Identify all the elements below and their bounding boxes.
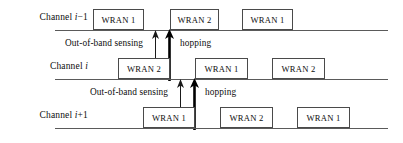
wran-box-label: WRAN 1 — [152, 113, 186, 123]
hopping-text: hopping — [205, 87, 236, 97]
wran-box-label: WRAN 1 — [251, 15, 285, 25]
channel-baseline-i-plus-1 — [55, 128, 388, 129]
channel-label-text-prefix: Channel — [50, 61, 85, 71]
wran-box: WRAN 1 — [242, 9, 293, 30]
wran-box: WRAN 2 — [170, 9, 219, 30]
wran-box: WRAN 1 — [195, 58, 248, 79]
wran-box: WRAN 1 — [297, 107, 350, 128]
hopping-text: hopping — [180, 38, 211, 48]
wran-box-label: WRAN 1 — [102, 15, 136, 25]
wran-box-label: WRAN 2 — [178, 15, 212, 25]
wran-box: WRAN 2 — [118, 58, 170, 79]
channel-label-text-var: i — [85, 61, 88, 71]
channel-baseline-i — [55, 79, 388, 80]
wran-box: WRAN 1 — [143, 107, 195, 128]
channel-label-i: Channel i — [8, 61, 88, 71]
wran-box: WRAN 2 — [272, 58, 325, 79]
channel-label-i-plus-1: Channel i+1 — [8, 110, 88, 120]
wran-box-label: WRAN 1 — [307, 113, 341, 123]
wran-box-label: WRAN 2 — [282, 64, 316, 74]
hopping-label: hopping — [180, 38, 211, 48]
wran-box-label: WRAN 2 — [127, 64, 161, 74]
out-of-band-sensing-text: Out-of-band sensing — [90, 87, 168, 97]
wran-box-label: WRAN 2 — [230, 113, 264, 123]
wran-box-label: WRAN 1 — [205, 64, 239, 74]
out-of-band-sensing-label: Out-of-band sensing — [90, 87, 168, 97]
channel-label-text-prefix: Channel — [40, 110, 75, 120]
channel-baseline-i-minus-1 — [55, 30, 388, 31]
channel-label-text-suffix: −1 — [78, 12, 88, 22]
wran-box: WRAN 2 — [220, 107, 273, 128]
wran-channel-timeline-diagram: Channel i−1 WRAN 1 WRAN 2 WRAN 1 Out-of-… — [0, 0, 403, 143]
out-of-band-sensing-text: Out-of-band sensing — [65, 38, 143, 48]
channel-label-text-suffix: +1 — [78, 110, 88, 120]
out-of-band-sensing-label: Out-of-band sensing — [65, 38, 143, 48]
hopping-label: hopping — [205, 87, 236, 97]
channel-label-text-prefix: Channel — [40, 12, 75, 22]
wran-box: WRAN 1 — [93, 9, 144, 30]
channel-label-i-minus-1: Channel i−1 — [8, 12, 88, 22]
